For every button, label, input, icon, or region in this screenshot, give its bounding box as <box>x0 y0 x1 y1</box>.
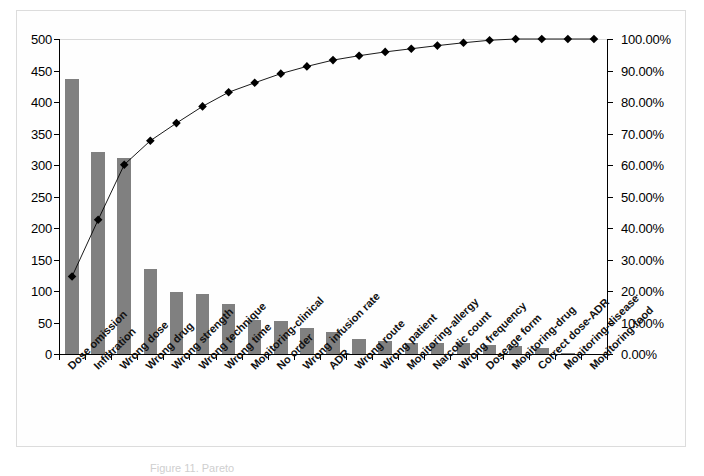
cumulative-marker <box>198 102 207 111</box>
y-axis-right-tick <box>607 134 613 135</box>
y-axis-left-tick-label: 200 <box>16 222 52 235</box>
x-axis-tick <box>242 354 243 360</box>
x-axis-tick <box>216 354 217 360</box>
y-axis-right-tick-label: 40.00% <box>621 222 693 235</box>
y-axis-right-tick-label: 80.00% <box>621 96 693 109</box>
x-axis-tick <box>424 354 425 360</box>
x-axis-tick <box>450 354 451 360</box>
cumulative-marker <box>68 272 77 281</box>
x-axis-tick <box>477 354 478 360</box>
y-axis-left-tick-label: 150 <box>16 254 52 267</box>
y-axis-right-tick <box>607 71 613 72</box>
y-axis-right-tick <box>607 291 613 292</box>
y-axis-left-tick-label: 50 <box>16 317 52 330</box>
y-axis-right-tick <box>607 165 613 166</box>
x-axis-tick <box>268 354 269 360</box>
x-axis <box>59 354 608 355</box>
y-axis-right-tick <box>607 39 613 40</box>
y-axis-right-tick <box>607 102 613 103</box>
x-axis-tick <box>372 354 373 360</box>
y-axis-right-tick-label: 20.00% <box>621 285 693 298</box>
y-axis-left-tick-label: 500 <box>16 33 52 46</box>
cumulative-marker <box>94 216 103 225</box>
cumulative-marker <box>407 44 416 53</box>
cumulative-marker <box>355 51 364 60</box>
x-axis-tick <box>503 354 504 360</box>
cumulative-line-series <box>59 39 607 354</box>
y-axis-left-tick-label: 100 <box>16 285 52 298</box>
x-axis-tick <box>607 354 608 360</box>
cumulative-marker <box>224 88 233 97</box>
cumulative-marker <box>277 69 286 78</box>
y-axis-right-tick <box>607 197 613 198</box>
y-axis-left-tick-label: 250 <box>16 191 52 204</box>
y-axis-right-tick-label: 60.00% <box>621 159 693 172</box>
x-axis-tick <box>137 354 138 360</box>
x-axis-tick <box>85 354 86 360</box>
figure-caption: Figure 11. Pareto <box>150 462 480 474</box>
x-axis-tick <box>111 354 112 360</box>
x-axis-tick <box>163 354 164 360</box>
y-axis-left-tick-label: 350 <box>16 128 52 141</box>
cumulative-marker <box>329 56 338 65</box>
y-axis-right-tick-label: 70.00% <box>621 128 693 141</box>
x-axis-tick <box>398 354 399 360</box>
y-axis-right-tick <box>607 228 613 229</box>
x-axis-tick <box>581 354 582 360</box>
y-axis-right-tick-label: 10.00% <box>621 317 693 330</box>
x-axis-tick <box>555 354 556 360</box>
y-axis-right-tick-label: 0.00% <box>621 348 693 361</box>
cumulative-marker <box>303 62 312 71</box>
y-axis-left-tick-label: 300 <box>16 159 52 172</box>
x-axis-tick <box>346 354 347 360</box>
cumulative-marker <box>172 119 181 128</box>
y-axis-right-tick-label: 30.00% <box>621 254 693 267</box>
y-axis-right-tick-label: 100.00% <box>621 33 693 46</box>
cumulative-marker <box>459 38 468 47</box>
x-axis-tick <box>529 354 530 360</box>
cumulative-marker <box>433 41 442 50</box>
x-axis-tick <box>59 354 60 360</box>
y-axis-right-tick <box>607 323 613 324</box>
x-axis-tick <box>320 354 321 360</box>
y-axis-right-tick <box>607 260 613 261</box>
y-axis-left-tick-label: 0 <box>16 348 52 361</box>
cumulative-marker <box>381 48 390 57</box>
pareto-chart-figure: 050100150200250300350400450500 0.00%10.0… <box>0 0 704 476</box>
y-axis-right-tick-label: 50.00% <box>621 191 693 204</box>
x-axis-tick <box>294 354 295 360</box>
y-axis-left-tick-label: 400 <box>16 96 52 109</box>
cumulative-line <box>72 39 594 277</box>
cumulative-marker <box>250 78 259 87</box>
y-axis-right-tick-label: 90.00% <box>621 65 693 78</box>
x-axis-tick <box>189 354 190 360</box>
y-axis-left-tick-label: 450 <box>16 65 52 78</box>
